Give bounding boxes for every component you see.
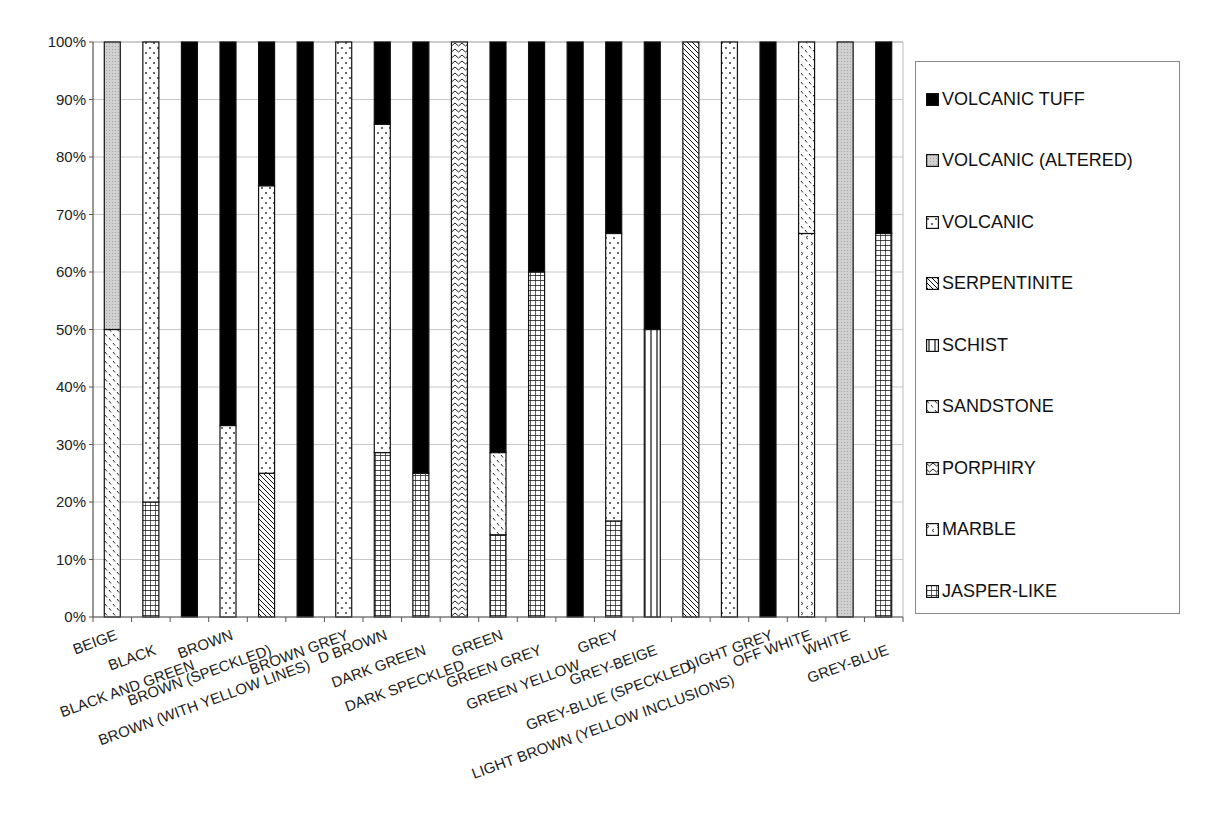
bar-stack xyxy=(259,42,275,617)
y-tick-label: 70% xyxy=(56,206,86,223)
y-tick-label: 90% xyxy=(56,91,86,108)
legend-swatch-icon xyxy=(926,154,942,167)
bars xyxy=(104,42,891,617)
bar-segment xyxy=(336,42,352,617)
bar-segment xyxy=(451,42,467,617)
bar-stack xyxy=(567,42,583,617)
bar-segment xyxy=(644,42,660,330)
bar-stack xyxy=(490,42,506,617)
bar-segment xyxy=(374,42,390,124)
legend-swatch-icon xyxy=(926,339,942,352)
legend-item: SCHIST xyxy=(926,334,1008,356)
bar-segment xyxy=(606,42,622,233)
bar-segment xyxy=(529,272,545,617)
bar-segment xyxy=(799,42,815,233)
bar-segment xyxy=(721,42,737,617)
bar-segment xyxy=(567,42,583,617)
y-tick-label: 10% xyxy=(56,551,86,568)
legend-swatch-icon xyxy=(926,216,942,229)
bar-stack xyxy=(876,42,892,617)
bar-segment xyxy=(374,124,390,452)
bar-segment xyxy=(529,42,545,272)
y-tick-label: 40% xyxy=(56,378,86,395)
bar-segment xyxy=(143,502,159,617)
bar-segment xyxy=(490,535,506,617)
y-tick-label: 80% xyxy=(56,148,86,165)
legend-label: MARBLE xyxy=(942,519,1016,540)
legend-swatch-icon xyxy=(926,523,942,536)
bar-stack xyxy=(529,42,545,617)
bar-stack xyxy=(143,42,159,617)
legend-item: VOLCANIC (ALTERED) xyxy=(926,150,1133,172)
y-tick-label: 0% xyxy=(64,608,86,625)
bar-segment xyxy=(259,473,275,617)
y-tick-label: 50% xyxy=(56,321,86,338)
bar-segment xyxy=(876,233,892,617)
bar-segment xyxy=(490,42,506,453)
legend-label: SCHIST xyxy=(942,335,1008,356)
legend-swatch-icon xyxy=(926,462,942,475)
bar-segment xyxy=(644,330,660,618)
bar-segment xyxy=(876,42,892,233)
stacked-bar-chart: 0%10%20%30%40%50%60%70%80%90%100% BEIGEB… xyxy=(0,0,1219,821)
legend-item: PORPHIRY xyxy=(926,457,1036,479)
bar-stack xyxy=(336,42,352,617)
bar-segment xyxy=(837,42,853,617)
x-tick-label: BLACK xyxy=(106,641,158,674)
legend-item: SANDSTONE xyxy=(926,396,1054,418)
bar-stack xyxy=(413,42,429,617)
y-axis-tick-labels: 0%10%20%30%40%50%60%70%80%90%100% xyxy=(48,33,86,625)
y-tick-label: 20% xyxy=(56,493,86,510)
bar-stack xyxy=(297,42,313,617)
bar-stack xyxy=(760,42,776,617)
bar-stack xyxy=(104,42,120,617)
y-tick-label: 60% xyxy=(56,263,86,280)
bar-segment xyxy=(220,426,236,617)
bar-segment xyxy=(606,521,622,617)
bar-segment xyxy=(104,42,120,330)
bar-stack xyxy=(644,42,660,617)
bar-stack xyxy=(374,42,390,617)
bar-stack xyxy=(683,42,699,617)
bar-segment xyxy=(606,233,622,520)
x-tick-label: GREY xyxy=(575,626,621,657)
bar-segment xyxy=(374,453,390,617)
bar-stack xyxy=(181,42,197,617)
bar-stack xyxy=(837,42,853,617)
legend-label: JASPER-LIKE xyxy=(942,581,1057,602)
bar-segment xyxy=(220,42,236,426)
y-tick-label: 30% xyxy=(56,436,86,453)
bar-segment xyxy=(181,42,197,617)
bar-stack xyxy=(721,42,737,617)
bar-segment xyxy=(297,42,313,617)
bar-segment xyxy=(143,42,159,502)
bar-segment xyxy=(683,42,699,617)
legend-label: PORPHIRY xyxy=(942,458,1036,479)
legend-item: SERPENTINITE xyxy=(926,273,1073,295)
legend: VOLCANIC TUFF VOLCANIC (ALTERED) VOLCANI… xyxy=(915,61,1180,614)
legend-item: MARBLE xyxy=(926,519,1016,541)
legend-swatch-icon xyxy=(926,585,942,598)
bar-segment xyxy=(799,233,815,617)
bar-segment xyxy=(413,473,429,617)
legend-label: VOLCANIC (ALTERED) xyxy=(942,150,1133,171)
bar-segment xyxy=(104,330,120,618)
legend-label: SERPENTINITE xyxy=(942,273,1073,294)
legend-label: SANDSTONE xyxy=(942,396,1054,417)
y-tick-label: 100% xyxy=(48,33,86,50)
x-tick-label: BEIGE xyxy=(70,626,119,658)
legend-swatch-icon xyxy=(926,277,942,290)
legend-item: JASPER-LIKE xyxy=(926,580,1057,602)
bar-stack xyxy=(606,42,622,617)
legend-label: VOLCANIC xyxy=(942,212,1034,233)
bar-segment xyxy=(259,42,275,186)
bar-segment xyxy=(760,42,776,617)
legend-item: VOLCANIC TUFF xyxy=(926,88,1085,110)
legend-item: VOLCANIC xyxy=(926,211,1034,233)
bar-stack xyxy=(220,42,236,617)
bar-segment xyxy=(413,42,429,473)
bar-stack xyxy=(799,42,815,617)
bar-segment xyxy=(490,453,506,535)
legend-label: VOLCANIC TUFF xyxy=(942,89,1085,110)
x-axis-tick-labels: BEIGEBLACKBLACK AND GREENBROWNBROWN (SPE… xyxy=(57,626,890,782)
